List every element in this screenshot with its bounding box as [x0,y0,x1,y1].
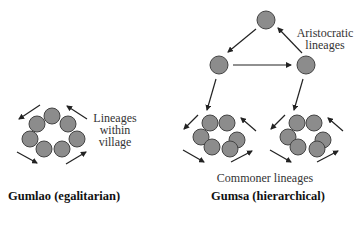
gumsa-commoner-cluster-right [280,115,331,157]
gumlao-title: Gumlao (egalitarian) [8,189,120,204]
label-line: lineages [290,39,359,51]
gumlao-lineage-ring [22,108,85,157]
commoner-lineages-label: Commoner lineages [205,172,325,184]
gumsa-title: Gumsa (hierarchical) [211,189,325,204]
lineages-within-village-label: Lineages within village [86,112,144,148]
aristocratic-lineages-label: Aristocratic lineages [290,27,359,51]
gumsa-commoner-cluster-left [193,115,245,157]
label-line: village [86,136,144,148]
